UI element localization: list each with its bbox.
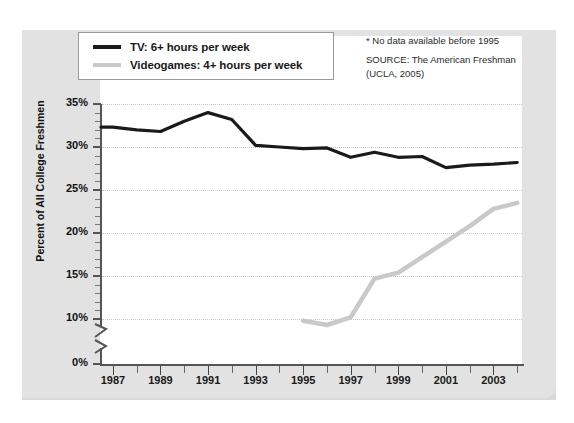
x-tick-label-2003: 2003 xyxy=(468,374,518,386)
x-tick-2004 xyxy=(517,366,518,373)
y-tick-label-0: 0% xyxy=(46,356,88,368)
x-tick-1990 xyxy=(184,366,185,373)
page-margin-left xyxy=(0,0,22,423)
y-axis-line xyxy=(100,104,102,327)
x-tick-label-1993: 1993 xyxy=(231,374,281,386)
legend-swatch-tv xyxy=(93,45,121,49)
y-tick-label-15: 15% xyxy=(46,268,88,280)
legend-item-tv: TV: 6+ hours per week xyxy=(93,41,250,53)
y-tick-label-20: 20% xyxy=(46,225,88,237)
gridline-35 xyxy=(102,104,522,105)
legend-label-videogames: Videogames: 4+ hours per week xyxy=(130,59,302,71)
x-tick-1998 xyxy=(375,366,376,373)
y-axis-title: Percent of All College Freshmen xyxy=(34,81,46,281)
x-axis-line xyxy=(100,364,524,366)
x-tick-2002 xyxy=(470,366,471,373)
x-tick-1996 xyxy=(327,366,328,373)
gridline-30 xyxy=(102,147,522,148)
gridline-25 xyxy=(102,190,522,191)
legend-label-tv: TV: 6+ hours per week xyxy=(130,41,250,53)
x-tick-2000 xyxy=(422,366,423,373)
gridline-15 xyxy=(102,276,522,277)
axis-break-marker xyxy=(92,322,114,354)
legend-item-videogames: Videogames: 4+ hours per week xyxy=(93,59,302,71)
source-line-1: SOURCE: The American Freshman xyxy=(366,53,566,67)
x-tick-label-2001: 2001 xyxy=(421,374,471,386)
legend-swatch-videogames xyxy=(93,63,121,67)
gridline-20 xyxy=(102,233,522,234)
chart-notes: * No data available before 1995 SOURCE: … xyxy=(366,34,566,81)
page-margin-bottom xyxy=(0,400,574,423)
plot-background xyxy=(100,104,522,365)
x-tick-label-1997: 1997 xyxy=(326,374,376,386)
x-tick-label-1987: 1987 xyxy=(88,374,138,386)
x-tick-label-1991: 1991 xyxy=(183,374,233,386)
source-line-2: (UCLA, 2005) xyxy=(366,67,566,81)
y-tick-label-10: 10% xyxy=(46,311,88,323)
x-tick-label-1989: 1989 xyxy=(135,374,185,386)
chart-legend: TV: 6+ hours per week Videogames: 4+ hou… xyxy=(78,32,334,80)
y-tick-label-30: 30% xyxy=(46,139,88,151)
y-tick-label-25: 25% xyxy=(46,182,88,194)
chart-figure: TV: 6+ hours per week Videogames: 4+ hou… xyxy=(0,0,574,423)
gridline-10 xyxy=(102,319,522,320)
page-margin-top xyxy=(0,0,574,30)
x-tick-1992 xyxy=(232,366,233,373)
x-tick-label-1995: 1995 xyxy=(278,374,328,386)
x-tick-label-1999: 1999 xyxy=(373,374,423,386)
x-tick-1994 xyxy=(279,366,280,373)
x-tick-1988 xyxy=(137,366,138,373)
y-tick-label-35: 35% xyxy=(46,96,88,108)
footnote-text: * No data available before 1995 xyxy=(366,34,566,48)
